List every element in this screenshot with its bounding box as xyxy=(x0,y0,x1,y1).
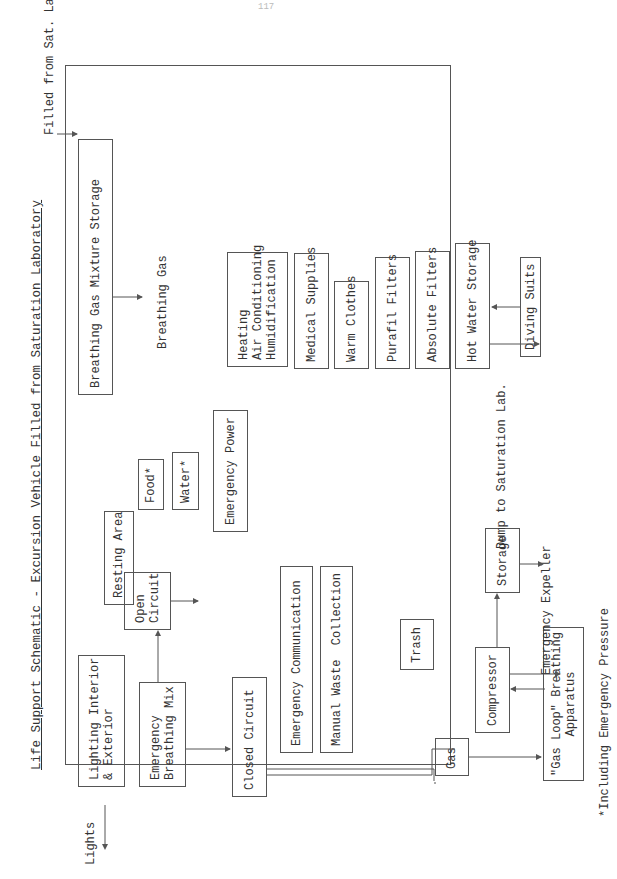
storage-to-dump-head xyxy=(538,561,544,567)
life-support-schematic: Life Support Schematic - Excursion Vehic… xyxy=(0,0,617,879)
suits-to-hotwater-head xyxy=(491,304,497,310)
open-circuit-out-head xyxy=(193,598,199,604)
connection-lines xyxy=(0,0,617,879)
compressor-to-storage-head xyxy=(494,593,500,599)
ebm-to-open-head xyxy=(155,630,161,636)
breathing-gas-arrow-head xyxy=(137,294,143,300)
lights-arrow-head xyxy=(102,844,108,850)
ebm-to-closed-head xyxy=(225,746,231,752)
hotwater-to-outside-head xyxy=(534,341,540,347)
gasloop-to-compressor-head xyxy=(510,686,516,692)
gas-to-gasloop-head xyxy=(536,754,542,760)
fill-arrow-head xyxy=(72,131,78,137)
closed-route xyxy=(267,749,455,775)
compressor-out-head xyxy=(555,671,561,677)
